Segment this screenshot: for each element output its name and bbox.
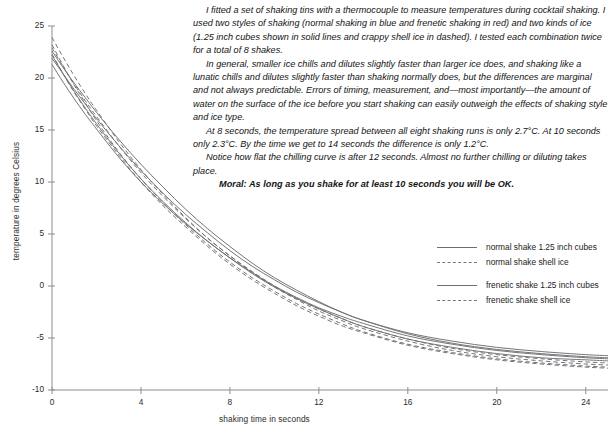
legend-label: normal shake 1.25 inch cubes (486, 242, 597, 252)
legend-group-spacer (437, 269, 616, 278)
article-paragraph: In general, smaller ice chills and dilut… (193, 58, 608, 125)
legend-solid-line-icon (437, 242, 477, 252)
x-tick-label: 0 (37, 397, 67, 407)
x-tick-label: 4 (126, 397, 156, 407)
x-tick-label: 16 (393, 397, 423, 407)
article-text: I fitted a set of shaking tins with a th… (193, 4, 608, 192)
x-tick-label: 8 (215, 397, 245, 407)
article-paragraph: I fitted a set of shaking tins with a th… (193, 4, 608, 58)
x-tick-label: 24 (571, 397, 601, 407)
y-tick-label: 20 (14, 72, 44, 82)
legend-solid-line-icon (437, 280, 477, 290)
y-tick-label: -5 (14, 332, 44, 342)
legend-item: frenetic shake shell ice (437, 293, 616, 308)
y-tick-label: -10 (14, 384, 44, 394)
y-tick-label: 25 (14, 20, 44, 30)
x-tick-label: 20 (482, 397, 512, 407)
article-paragraph: At 8 seconds, the temperature spread bet… (193, 125, 608, 152)
legend-item: normal shake shell ice (437, 255, 616, 270)
legend-label: frenetic shake shell ice (486, 295, 570, 305)
legend-dashed-line-icon (437, 295, 477, 305)
legend-item: frenetic shake 1.25 inch cubes (437, 278, 616, 293)
x-axis-title: shaking time in seconds (219, 414, 310, 424)
chart-legend: normal shake 1.25 inch cubesnormal shake… (437, 240, 616, 307)
legend-dashed-line-icon (437, 257, 477, 267)
figure-page: -10-5051015202504812162024 temperature i… (0, 0, 616, 442)
article-moral: Moral: As long as you shake for at least… (193, 178, 608, 191)
article-paragraph: Notice how flat the chilling curve is af… (193, 151, 608, 178)
legend-label: normal shake shell ice (486, 257, 569, 267)
legend-label: frenetic shake 1.25 inch cubes (486, 280, 599, 290)
y-axis-title: temperature in degrees Celsius (11, 91, 21, 311)
legend-item: normal shake 1.25 inch cubes (437, 240, 616, 255)
x-tick-label: 12 (304, 397, 334, 407)
